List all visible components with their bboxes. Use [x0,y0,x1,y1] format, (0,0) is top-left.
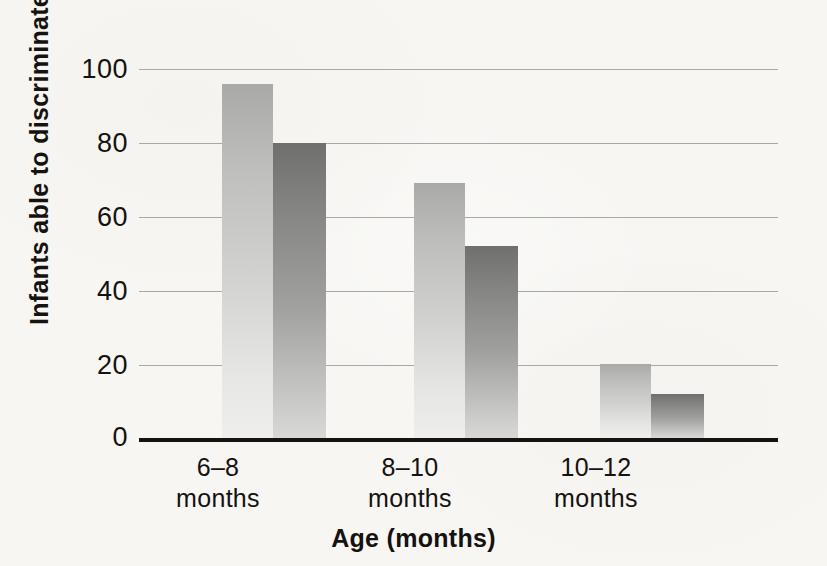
bar-dark-6-8 [273,143,326,438]
bar-light-6-8 [222,84,273,438]
x-axis-title: Age (months) [0,524,827,553]
x-tick-range-8-10: 8–10 [355,452,465,483]
x-tick-unit-10-12: months [541,483,651,514]
x-tick-range-10-12: 10–12 [541,452,651,483]
bar-dark-8-10 [465,246,518,438]
x-tick-unit-6-8: months [163,483,273,514]
y-axis-title: Infants able to discriminate (%) [25,0,54,351]
x-tick-label-8-10: 8–10 months [355,452,465,513]
plot-area [139,69,778,438]
x-axis-line [139,438,778,442]
y-tick-label-20: 20 [60,350,128,381]
bar-light-10-12 [600,364,651,438]
chart-page: Infants able to discriminate (%) 100 80 … [0,0,827,566]
gridline-100 [139,69,778,70]
y-tick-label-100: 100 [60,54,128,85]
x-tick-unit-8-10: months [355,483,465,514]
bar-dark-10-12 [651,394,704,438]
bar-light-8-10 [414,183,465,438]
x-tick-range-6-8: 6–8 [163,452,273,483]
y-tick-label-40: 40 [60,276,128,307]
y-tick-label-80: 80 [60,128,128,159]
y-tick-label-60: 60 [60,202,128,233]
x-tick-label-6-8: 6–8 months [163,452,273,513]
x-tick-label-10-12: 10–12 months [541,452,651,513]
y-tick-label-0: 0 [60,422,128,453]
